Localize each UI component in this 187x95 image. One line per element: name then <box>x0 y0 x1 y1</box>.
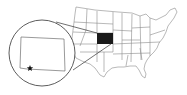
inset-circle <box>9 20 75 86</box>
colorado-highlight <box>97 33 113 44</box>
us-outline <box>72 7 177 78</box>
locator-map <box>0 0 187 95</box>
map-svg <box>0 0 187 95</box>
